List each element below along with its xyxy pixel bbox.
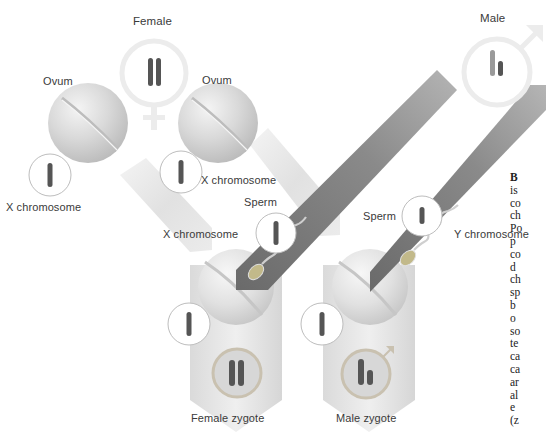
caption-line: co (510, 197, 546, 210)
caption-line: co (510, 248, 546, 261)
caption-text-cropped: B is co ch Po p co d ch sp b o so te ca … (510, 171, 546, 427)
caption-line: b (510, 299, 546, 312)
ovum-left-x-chromosome-label: X chromosome (6, 201, 81, 213)
caption-line: al (510, 389, 546, 402)
female-symbol-icon (122, 41, 186, 130)
male-label: Male (480, 12, 505, 24)
caption-line: ar (510, 376, 546, 389)
caption-line: ca (510, 363, 546, 376)
caption-line: Po (510, 222, 546, 235)
ovum-left-label: Ovum (43, 75, 73, 87)
caption-line: ch (510, 209, 546, 222)
sperm-x-label: Sperm (244, 196, 277, 208)
sperm-x-chromosome-label: X chromosome (163, 228, 238, 240)
ovum-right-egg (178, 83, 258, 163)
male-zygote-label: Male zygote (336, 412, 396, 424)
x-chromosome-callout-left (29, 154, 71, 196)
caption-line: (z (510, 414, 546, 427)
caption-line: so (510, 325, 546, 338)
caption-line: o (510, 312, 546, 325)
caption-line: B (510, 171, 546, 184)
sperm-y-label: Sperm (363, 210, 396, 222)
diagram-canvas: Female Male Ovum Ovum X chromosome X chr… (0, 0, 546, 434)
sperm-y-chromosome-callout (402, 196, 442, 236)
diagram-artwork (0, 0, 546, 434)
caption-line: ca (510, 350, 546, 363)
caption-line: is (510, 184, 546, 197)
x-chromosome-callout-right (160, 151, 202, 193)
sperm-x-chromosome-callout (256, 213, 296, 253)
ovum-right-label: Ovum (202, 74, 232, 86)
female-zygote-nucleus-icon (213, 349, 261, 397)
ovum-left-egg (48, 83, 128, 163)
caption-line: te (510, 337, 546, 350)
caption-line: e (510, 401, 546, 414)
female-zygote-label: Female zygote (191, 412, 264, 424)
caption-line: sp (510, 286, 546, 299)
female-label: Female (133, 15, 172, 27)
male-zygote-x-callout (301, 303, 343, 345)
caption-line: d (510, 261, 546, 274)
ovum-right-x-chromosome-label: X chromosome (201, 174, 276, 186)
caption-line: ch (510, 273, 546, 286)
caption-line: p (510, 235, 546, 248)
female-zygote-x-callout (168, 303, 210, 345)
